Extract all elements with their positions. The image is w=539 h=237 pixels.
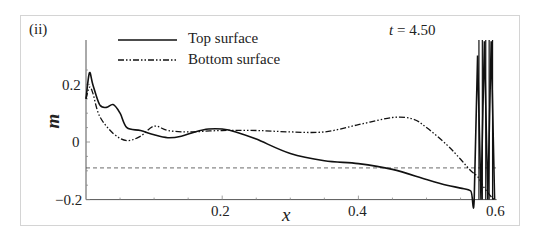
time-annotation: t = 4.50 [389,22,435,39]
series-bottom-surface [86,87,495,200]
y-tick-label-neg-0.2: −0.2 [55,192,82,209]
y-tick-label-0.2: 0.2 [62,77,81,94]
series-top-surface [86,41,495,208]
panel-label: (ii) [29,21,47,38]
series-lines [86,40,495,208]
x-tick-label-0.6: 0.6 [486,203,505,220]
legend-lines [118,40,177,60]
time-variable: t [389,22,393,38]
x-axis-label: x [282,204,290,226]
legend-label-bottom-surface: Bottom surface [188,51,280,68]
axes [86,40,497,200]
legend-label-top-surface: Top surface [188,30,258,47]
y-axis-label: m [42,114,64,129]
y-tick-label-0: 0 [72,134,80,151]
x-tick-label-0.4: 0.4 [348,203,367,220]
ticks [86,70,495,200]
time-value: = 4.50 [397,22,435,38]
x-tick-label-0.2: 0.2 [211,203,230,220]
